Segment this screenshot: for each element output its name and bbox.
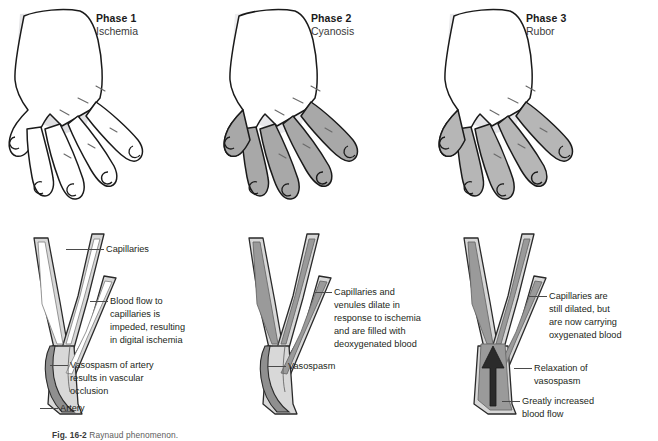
label-artery: Artery	[60, 402, 85, 415]
figure-caption-label: Fig. 16-2	[52, 430, 87, 440]
leader-capillaries-oxygenated	[529, 296, 547, 297]
phase-1-hand-illustration	[4, 6, 210, 221]
leader-blood-flow-impeded	[90, 301, 108, 302]
label-capillaries-dilate: Capillaries and venules dilate in respon…	[334, 286, 421, 351]
label-capillaries-oxygenated: Capillaries are still dilated, but are n…	[549, 290, 622, 342]
label-vasospasm-occlusion: Vasospasm of artery results in vascular …	[70, 359, 154, 398]
leader-relaxation-vasospasm	[514, 368, 532, 369]
leader-capillaries-dilate	[314, 292, 332, 293]
leader-capillaries	[66, 249, 104, 250]
phase-column-3: Phase 3 Rubor	[430, 0, 649, 441]
label-capillaries: Capillaries	[106, 243, 149, 256]
label-vasospasm: Vasospasm	[288, 360, 335, 373]
phase-3-hand-illustration	[434, 6, 640, 221]
phase-3-vessel-illustration	[438, 228, 558, 420]
label-increased-blood-flow: Greatly increased blood flow	[522, 395, 594, 421]
phase-2-vessel-illustration	[223, 228, 343, 420]
leader-artery	[40, 408, 58, 409]
figure-caption-text: Raynaud phenomenon.	[89, 430, 178, 440]
figure-caption: Fig. 16-2 Raynaud phenomenon.	[52, 430, 178, 440]
raynaud-phenomenon-figure: Phase 1 Ischemia	[0, 0, 658, 441]
label-relaxation-vasospasm: Relaxation of vasospasm	[534, 362, 588, 388]
leader-vasospasm-occlusion	[50, 365, 68, 366]
phase-column-1: Phase 1 Ischemia	[0, 0, 219, 441]
phase-column-2: Phase 2 Cyanosis	[215, 0, 434, 441]
label-blood-flow-impeded: Blood flow to capillaries is impeded, re…	[110, 295, 185, 347]
phase-2-hand-illustration	[219, 6, 425, 221]
leader-increased-blood-flow	[502, 401, 520, 402]
leader-vasospasm	[268, 366, 286, 367]
